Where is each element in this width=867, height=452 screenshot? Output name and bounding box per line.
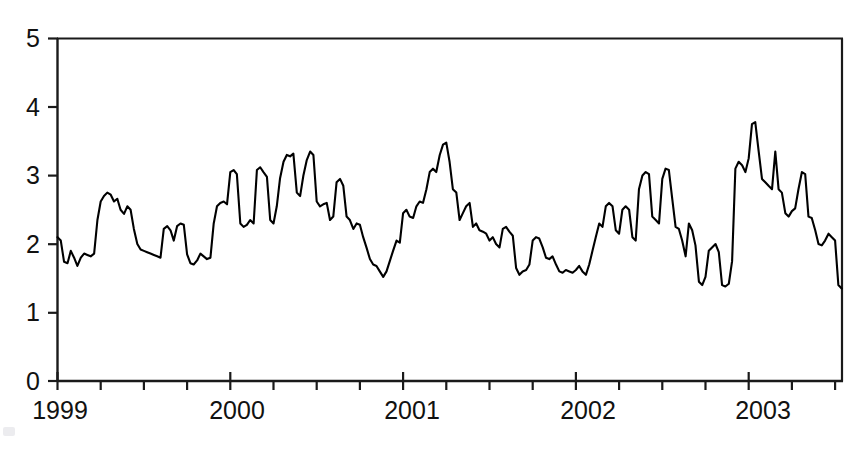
figure-container: 5 4 3 2 1 0 1999 2000 2001 2002 2003 (0, 0, 867, 452)
x-tick-label-2002: 2002 (560, 396, 616, 424)
y-tick-label-3: 3 (26, 161, 40, 189)
x-tick-label-1999: 1999 (32, 396, 88, 424)
x-tick-label-2000: 2000 (209, 396, 265, 424)
scan-artifact (3, 427, 15, 436)
y-tick-label-1: 1 (26, 298, 40, 326)
y-tick-label-2: 2 (26, 230, 40, 258)
x-tick-label-2001: 2001 (384, 396, 440, 424)
chart-background (0, 0, 867, 452)
y-tick-label-4: 4 (26, 93, 40, 121)
time-series-line-chart: 5 4 3 2 1 0 1999 2000 2001 2002 2003 (0, 0, 867, 452)
y-tick-label-0: 0 (26, 367, 40, 395)
x-tick-label-2003: 2003 (735, 396, 791, 424)
y-tick-label-5: 5 (26, 24, 40, 52)
